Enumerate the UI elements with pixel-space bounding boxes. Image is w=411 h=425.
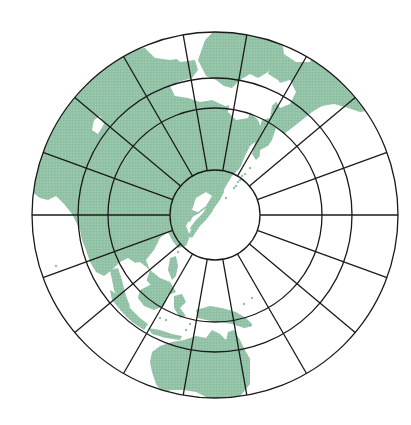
kuril-island [235, 185, 238, 188]
azimuthal-map [0, 0, 411, 425]
kuril-island [239, 179, 242, 182]
map-container [0, 0, 411, 425]
landmass-tasmania [232, 400, 240, 408]
kuril-island [244, 173, 247, 176]
ryukyu-island [185, 239, 187, 241]
kuril-island [249, 167, 251, 169]
pacific-right [250, 115, 400, 420]
ryukyu-island [177, 251, 179, 253]
